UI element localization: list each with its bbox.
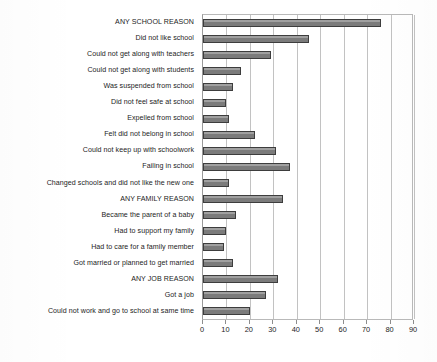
bar-row [203, 47, 412, 63]
category-label: ANY SCHOOL REASON [0, 14, 198, 30]
bar-row [203, 239, 412, 255]
category-label: Was suspended from school [0, 78, 198, 94]
bar [203, 259, 233, 267]
x-tick-label: 0 [200, 325, 204, 334]
bar-row [203, 223, 412, 239]
bar [203, 83, 233, 91]
bar [203, 131, 255, 139]
bar-row [203, 207, 412, 223]
x-tick-label: 60 [339, 325, 347, 334]
bar-row [203, 287, 412, 303]
bar [203, 51, 271, 59]
bar [203, 99, 226, 107]
category-axis-labels: ANY SCHOOL REASONDid not like schoolCoul… [0, 14, 198, 320]
bar [203, 179, 229, 187]
x-tick-mark [272, 320, 273, 324]
x-tick-mark [366, 320, 367, 324]
x-tick-mark [413, 320, 414, 324]
category-label: Got married or planned to get married [0, 256, 198, 272]
category-label: Had to care for a family member [0, 240, 198, 256]
bar [203, 243, 224, 251]
bar-row [203, 63, 412, 79]
bar-row [203, 303, 412, 319]
category-label: Had to support my family [0, 223, 198, 239]
bar-row [203, 15, 412, 31]
bar [203, 227, 226, 235]
category-label: ANY JOB REASON [0, 272, 198, 288]
x-tick-label: 50 [315, 325, 323, 334]
x-tick-mark [343, 320, 344, 324]
bar-row [203, 111, 412, 127]
bar [203, 115, 229, 123]
plot-area [202, 14, 413, 320]
x-tick-label: 90 [409, 325, 417, 334]
x-tick-mark [249, 320, 250, 324]
bar-row [203, 79, 412, 95]
x-tick-label: 10 [221, 325, 229, 334]
bar-series [203, 15, 412, 319]
x-axis: 0102030405060708090 [202, 320, 413, 342]
x-tick-mark [319, 320, 320, 324]
bar [203, 275, 278, 283]
x-tick-mark [202, 320, 203, 324]
bar [203, 147, 276, 155]
category-label: Changed schools and did not like the new… [0, 175, 198, 191]
category-label: Expelled from school [0, 111, 198, 127]
category-label: Got a job [0, 288, 198, 304]
x-tick-label: 80 [385, 325, 393, 334]
category-label: Could not get along with students [0, 62, 198, 78]
bar [203, 163, 290, 171]
category-label: ANY FAMILY REASON [0, 191, 198, 207]
category-label: Could not work and go to school at same … [0, 304, 198, 320]
x-tick-mark [390, 320, 391, 324]
bar-chart: ANY SCHOOL REASONDid not like schoolCoul… [0, 0, 437, 362]
category-label: Did not feel safe at school [0, 95, 198, 111]
category-label: Did not like school [0, 30, 198, 46]
bar-row [203, 159, 412, 175]
category-label: Became the parent of a baby [0, 207, 198, 223]
bar [203, 291, 266, 299]
category-label: Could not get along with teachers [0, 46, 198, 62]
bar-row [203, 191, 412, 207]
category-label: Felt did not belong in school [0, 127, 198, 143]
x-tick-label: 20 [245, 325, 253, 334]
bar [203, 67, 241, 75]
x-tick-mark [296, 320, 297, 324]
category-label: Could not keep up with schoolwork [0, 143, 198, 159]
bar-row [203, 271, 412, 287]
gridline [414, 15, 415, 319]
bar [203, 195, 283, 203]
bar-row [203, 175, 412, 191]
bar-row [203, 95, 412, 111]
bar-row [203, 255, 412, 271]
x-tick-label: 40 [292, 325, 300, 334]
bar [203, 307, 250, 315]
category-label: Failing in school [0, 159, 198, 175]
bar [203, 211, 236, 219]
bar [203, 35, 309, 43]
x-tick-label: 30 [268, 325, 276, 334]
bar [203, 19, 381, 27]
x-tick-label: 70 [362, 325, 370, 334]
bar-row [203, 31, 412, 47]
bar-row [203, 127, 412, 143]
x-tick-mark [225, 320, 226, 324]
bar-row [203, 143, 412, 159]
